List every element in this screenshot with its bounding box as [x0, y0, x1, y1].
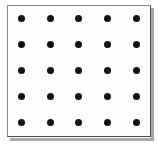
frame-drop-shadow-right	[151, 8, 154, 141]
dot-grid-figure	[0, 0, 158, 144]
grid-frame-border	[7, 5, 151, 137]
frame-drop-shadow-bottom	[10, 138, 154, 141]
